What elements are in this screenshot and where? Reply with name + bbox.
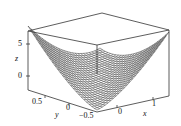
x-tick-0: 0 xyxy=(118,108,122,116)
surface-mesh xyxy=(28,26,169,110)
y-tick-0: 0 xyxy=(66,104,70,112)
y-axis-label: y xyxy=(55,111,59,119)
z-axis-label: z xyxy=(15,55,18,63)
z-tick-5: 5 xyxy=(18,40,22,48)
z-tick-0: 0 xyxy=(18,72,22,80)
x-tick-1: 1 xyxy=(152,100,156,108)
y-tick-neg-0.5: −0.5 xyxy=(79,112,94,120)
y-tick-0.5: 0.5 xyxy=(32,98,42,106)
surface-wireframe xyxy=(28,26,169,110)
x-axis-label: x xyxy=(143,110,147,118)
x-axis-ticks xyxy=(117,97,153,108)
